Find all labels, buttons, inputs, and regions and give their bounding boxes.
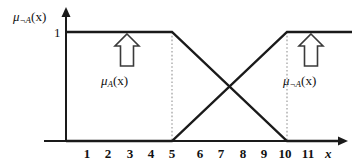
y-tick-label-1: 1 <box>54 26 61 39</box>
x-tick-label-4: 4 <box>143 147 159 160</box>
x-tick-label-11: 11 <box>300 147 316 160</box>
x-tick-label-3: 3 <box>122 147 138 160</box>
annotation-label-mu-a: μA(x) <box>101 74 128 89</box>
x-tick-label-6: 6 <box>192 147 208 160</box>
x-tick-label-9: 9 <box>256 147 272 160</box>
x-tick-label-5: 5 <box>164 147 180 160</box>
block-up-arrow-right <box>299 34 323 66</box>
annotation-right-subscript: ¬A <box>290 79 302 89</box>
y-axis <box>62 7 71 141</box>
x-tick-label-1: 1 <box>79 147 95 160</box>
annotation-label-mu-not-a: μ¬A(x) <box>283 74 316 89</box>
block-up-arrow-left <box>115 34 139 66</box>
y-axis-label-arg: (x) <box>31 9 46 24</box>
fuzzy-membership-figure: μ¬A(x) 1 1 2 3 4 5 6 7 8 9 10 11 x μA(x)… <box>0 0 354 168</box>
x-tick-label-8: 8 <box>235 147 251 160</box>
y-axis-label: μ¬A(x) <box>13 10 46 25</box>
y-axis-label-subscript: ¬A <box>20 15 32 25</box>
x-tick-label-7: 7 <box>213 147 229 160</box>
annotation-left-arg: (x) <box>113 73 128 88</box>
annotation-right-arg: (x) <box>301 73 316 88</box>
x-tick-label-10: 10 <box>277 147 293 160</box>
x-axis-name: x <box>325 147 332 160</box>
x-tick-label-2: 2 <box>100 147 116 160</box>
